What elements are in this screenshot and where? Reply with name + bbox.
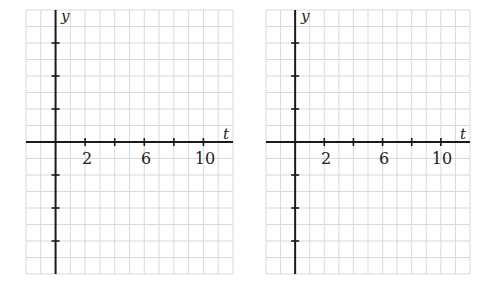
x-tick-label-6: 6 [141,151,151,167]
x-tick-label-10: 10 [432,151,452,167]
right-plot: y t 2 6 10 [240,0,486,300]
x-tick-label-2: 2 [82,151,92,167]
left-plot: y t 2 6 10 [0,0,246,300]
x-axis-label: t [223,126,229,142]
y-axis-label: y [301,8,309,24]
x-tick-label-6: 6 [379,151,389,167]
y-axis-label: y [61,8,69,24]
x-tick-label-2: 2 [321,151,331,167]
x-axis-label: t [460,126,466,142]
x-tick-label-10: 10 [195,151,215,167]
